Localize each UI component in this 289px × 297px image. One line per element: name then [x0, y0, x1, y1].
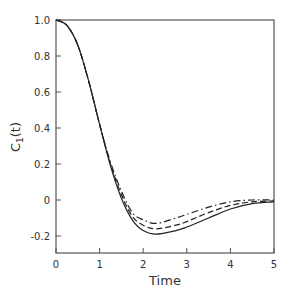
y-tick-label: 0.4 — [34, 123, 50, 134]
x-axis-ticks: 012345 — [53, 248, 277, 270]
x-tick-label: 0 — [53, 259, 59, 270]
y-label-arg: (t) — [8, 122, 23, 137]
chart-canvas: 1.00.80.60.40.20-0.2 012345 Time C1(t) — [0, 0, 289, 297]
x-tick-label: 5 — [271, 259, 277, 270]
x-tick-label: 4 — [227, 259, 233, 270]
y-tick-label: 0.8 — [34, 51, 50, 62]
dash-dot-curve — [56, 20, 274, 223]
svg-text:C1(t): C1(t) — [8, 122, 25, 152]
dashed-curve — [56, 20, 274, 229]
x-tick-label: 1 — [96, 259, 102, 270]
y-tick-label: -0.2 — [30, 231, 50, 242]
y-label-main: C — [8, 143, 23, 152]
y-axis-label: C1(t) — [8, 122, 25, 152]
plot-frame — [56, 20, 274, 253]
y-tick-label: 1.0 — [34, 15, 50, 26]
y-tick-label: 0 — [44, 195, 50, 206]
x-tick-label: 3 — [184, 259, 190, 270]
x-axis-label: Time — [148, 273, 181, 288]
curves — [56, 20, 274, 234]
solid-curve — [56, 20, 274, 234]
y-tick-label: 0.2 — [34, 159, 50, 170]
x-tick-label: 2 — [140, 259, 146, 270]
y-tick-label: 0.6 — [34, 87, 50, 98]
